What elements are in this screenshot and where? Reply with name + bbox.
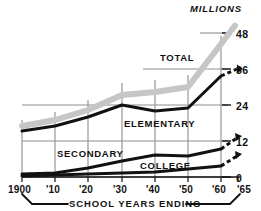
total-label: TOTAL [160,52,194,63]
xtick-label-1940: '40 [146,184,160,195]
series-college-projection [221,156,237,166]
xtick-label-1930: '30 [113,184,127,195]
xtick-label-1920: '20 [79,184,93,195]
xtick-label-1960: '60 [212,184,226,195]
xtick-label-1950: '50 [179,184,193,195]
ytick-label-12: 12 [236,136,248,148]
ytick-label-48: 48 [236,28,248,40]
secondary-label: SECONDARY [57,148,124,159]
xtick-label-1900: 1900 [8,184,31,195]
x-axis-caption: SCHOOL YEARS ENDING [69,198,201,209]
units-label: MILLIONS [190,3,242,14]
college-label: COLLEGE [140,160,191,171]
xtick-label-1910: '10 [46,184,60,195]
y-axis-ticks [222,33,231,177]
series-elementary-projection [221,69,237,76]
xtick-label-1965: '65 [237,184,251,195]
ytick-label-36: 36 [236,64,248,76]
chart-plot-area [0,0,261,211]
ytick-label-24: 24 [236,100,248,112]
ytick-label-0: 0 [236,172,242,184]
school-enrollment-chart: MILLIONS 0 12 24 36 48 1900 '10 '20 '30 … [0,0,261,211]
series-total [22,23,237,126]
series-secondary-projection [221,138,237,149]
bracket-left [22,194,68,204]
elementary-label: ELEMENTARY [124,118,195,129]
series-college-arrowhead [235,151,242,159]
